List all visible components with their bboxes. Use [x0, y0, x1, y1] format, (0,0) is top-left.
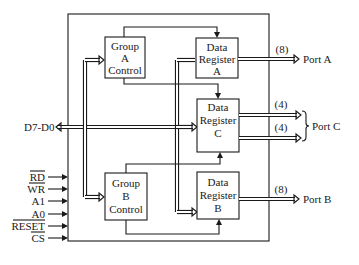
svg-text:Data: Data [208, 176, 229, 188]
svg-text:CS: CS [32, 232, 45, 244]
port-c-brace [302, 111, 309, 141]
svg-text:Register: Register [199, 53, 236, 65]
svg-text:Data: Data [208, 101, 229, 113]
svg-text:(8): (8) [276, 43, 289, 56]
svg-text:B: B [122, 190, 129, 202]
svg-text:Data: Data [207, 41, 228, 53]
svg-text:A0: A0 [32, 208, 46, 220]
svg-text:B: B [214, 202, 221, 214]
svg-text:Group: Group [112, 177, 141, 189]
block-diagram: Group A Control Group B Control Data Reg… [0, 0, 359, 265]
control-inputs: RD WR A1 A0 RESET CS [11, 171, 68, 244]
svg-text:RD: RD [30, 171, 45, 183]
svg-text:RESET: RESET [11, 220, 45, 232]
svg-text:Register: Register [200, 114, 237, 126]
svg-text:(4): (4) [275, 121, 288, 134]
svg-text:(8): (8) [275, 183, 288, 196]
svg-text:Port A: Port A [303, 53, 331, 65]
svg-text:A: A [213, 65, 221, 77]
svg-text:C: C [214, 127, 221, 139]
svg-text:WR: WR [27, 183, 45, 195]
svg-text:Group: Group [111, 40, 140, 52]
svg-text:A: A [121, 52, 129, 64]
svg-text:Control: Control [109, 203, 143, 215]
svg-text:Port B: Port B [303, 193, 331, 205]
svg-text:Register: Register [200, 189, 237, 201]
svg-text:Port C: Port C [312, 120, 340, 132]
svg-text:(4): (4) [275, 98, 288, 111]
svg-text:D7-D0: D7-D0 [24, 121, 55, 133]
svg-text:A1: A1 [32, 195, 45, 207]
svg-text:Control: Control [108, 64, 142, 76]
